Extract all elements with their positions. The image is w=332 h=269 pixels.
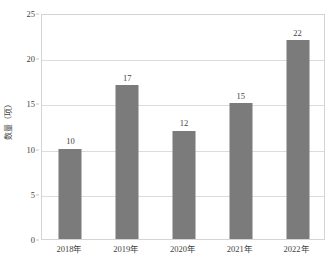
bar[interactable]: [59, 149, 82, 239]
x-axis-labels: 2018年2019年2020年2021年2022年: [41, 243, 325, 261]
bar-value-label: 17: [123, 74, 132, 83]
bar-value-label: 10: [66, 137, 75, 146]
bar-slot: 10: [42, 15, 99, 239]
y-axis-ticks: 0510152025: [16, 0, 38, 269]
y-axis-title-text: 数量（项）: [5, 100, 13, 140]
y-tick-mark: [36, 104, 39, 105]
y-tick-mark: [36, 59, 39, 60]
y-tick-mark: [36, 14, 39, 15]
bar[interactable]: [229, 103, 252, 239]
bar-value-label: 12: [180, 119, 189, 128]
y-tick-label: 5: [31, 191, 35, 200]
y-tick-label: 25: [27, 10, 36, 19]
y-tick-label: 15: [27, 100, 36, 109]
bar-slot: 17: [99, 15, 156, 239]
y-tick-mark: [36, 194, 39, 195]
bars-layer: 1017121522: [42, 15, 324, 239]
bar-slot: 12: [156, 15, 213, 239]
y-tick-label: 0: [31, 236, 35, 245]
bar-value-label: 15: [237, 92, 246, 101]
x-tick-label: 2022年: [284, 245, 310, 254]
bar-value-label: 22: [293, 29, 302, 38]
bar[interactable]: [172, 131, 195, 239]
y-tick-mark: [36, 240, 39, 241]
bar-chart: 数量（项） 0510152025 1017121522 2018年2019年20…: [0, 0, 332, 269]
bar[interactable]: [116, 85, 139, 239]
x-tick-label: 2019年: [113, 245, 139, 254]
bar-slot: 22: [269, 15, 326, 239]
bar[interactable]: [286, 40, 309, 239]
plot-area: 1017121522: [41, 14, 325, 240]
y-tick-mark: [36, 149, 39, 150]
y-axis-title: 数量（项）: [2, 0, 16, 240]
x-tick-label: 2020年: [170, 245, 196, 254]
y-tick-label: 20: [27, 55, 36, 64]
x-tick-label: 2021年: [227, 245, 253, 254]
bar-slot: 15: [212, 15, 269, 239]
y-tick-label: 10: [27, 145, 36, 154]
x-tick-label: 2018年: [56, 245, 82, 254]
